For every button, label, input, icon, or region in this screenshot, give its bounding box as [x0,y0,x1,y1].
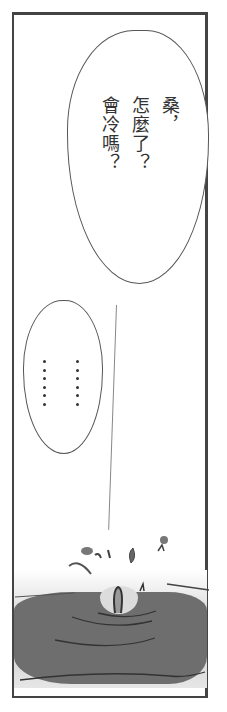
droplet-icon [81,547,93,555]
splash-drawing [0,0,227,712]
